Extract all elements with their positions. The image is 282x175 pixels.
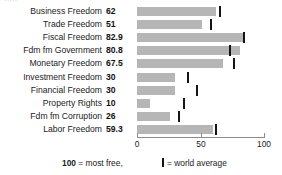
category-label: Property Rights — [2, 98, 102, 109]
category-label: Investment Freedom — [2, 72, 102, 83]
category-label: Business Freedom — [2, 6, 102, 17]
category-label-wrap: Fdm fm Corruption — [2, 111, 102, 122]
bar — [137, 112, 170, 121]
world-average-marker — [229, 45, 231, 56]
value-label: 59.3 — [106, 124, 132, 135]
value-label: 51 — [106, 19, 132, 30]
world-average-marker — [183, 98, 185, 109]
legend-world-average: = world average — [162, 157, 227, 170]
bar — [137, 33, 243, 42]
legend-most-free: 100 = most free, — [62, 157, 123, 170]
chart-row: Fdm fm Government80.8 — [0, 44, 282, 57]
value-label: 62 — [106, 6, 132, 17]
category-label: Labor Freedom — [2, 124, 102, 135]
value-label: 30 — [106, 72, 132, 83]
category-label-wrap: Fiscal Freedom — [2, 32, 102, 43]
category-label-wrap: Labor Freedom — [2, 124, 102, 135]
chart-row: Business Freedom62 — [0, 5, 282, 18]
world-average-marker — [233, 58, 235, 69]
chart-row: Monetary Freedom67.5 — [0, 57, 282, 70]
bar — [137, 59, 223, 68]
category-label-wrap: Monetary Freedom — [2, 58, 102, 69]
bar — [137, 46, 240, 55]
chart-row: Property Rights10 — [0, 97, 282, 110]
world-average-marker — [178, 111, 180, 122]
category-label-wrap: Property Rights — [2, 98, 102, 109]
category-label-wrap: Fdm fm Government — [2, 45, 102, 56]
chart-row: Fdm fm Corruption26 — [0, 110, 282, 123]
bar — [137, 7, 216, 16]
bar — [137, 99, 150, 108]
world-average-marker — [215, 124, 217, 135]
x-axis-tick-50 — [201, 133, 202, 138]
category-label: Fiscal Freedom — [2, 32, 102, 43]
bar — [137, 86, 175, 95]
x-axis-tick-100 — [264, 133, 265, 138]
category-label: Monetary Freedom — [2, 58, 102, 69]
value-label: 10 — [106, 98, 132, 109]
value-label: 30 — [106, 85, 132, 96]
value-label: 67.5 — [106, 58, 132, 69]
horizontal-bar-chart: ····· Business Freedom62Trade Freedom51F… — [0, 0, 282, 175]
value-label: 82.9 — [106, 32, 132, 43]
world-average-marker — [243, 32, 245, 43]
cutoff-top-row: ····· — [4, 0, 184, 2]
world-average-marker-icon — [162, 158, 164, 167]
bar — [137, 20, 202, 29]
world-average-marker — [187, 72, 189, 83]
category-label-wrap: Investment Freedom — [2, 72, 102, 83]
legend-most-free-value: 100 — [62, 158, 76, 168]
category-label: Fdm fm Corruption — [2, 111, 102, 122]
x-axis-label-100: 100 — [249, 139, 279, 150]
chart-row: Trade Freedom51 — [0, 18, 282, 31]
category-label: Trade Freedom — [2, 19, 102, 30]
x-axis-tick-0 — [137, 133, 138, 138]
chart-row: Financial Freedom30 — [0, 84, 282, 97]
value-label: 26 — [106, 111, 132, 122]
legend-most-free-text: = most free, — [76, 158, 123, 168]
chart-row: Labor Freedom59.3 — [0, 123, 282, 136]
chart-row: Fiscal Freedom82.9 — [0, 31, 282, 44]
category-label-wrap: Business Freedom — [2, 6, 102, 17]
x-axis-label-0: 0 — [122, 139, 152, 150]
category-label: Fdm fm Government — [2, 45, 102, 56]
category-label: Financial Freedom — [2, 85, 102, 96]
category-label-wrap: Trade Freedom — [2, 19, 102, 30]
world-average-marker — [196, 85, 198, 96]
world-average-marker — [210, 19, 212, 30]
value-label: 80.8 — [106, 45, 132, 56]
category-label-wrap: Financial Freedom — [2, 85, 102, 96]
world-average-marker — [219, 6, 221, 17]
legend-world-average-text: = world average — [167, 158, 227, 168]
bar — [137, 73, 175, 82]
chart-row: Investment Freedom30 — [0, 71, 282, 84]
x-axis-label-50: 50 — [186, 139, 216, 150]
